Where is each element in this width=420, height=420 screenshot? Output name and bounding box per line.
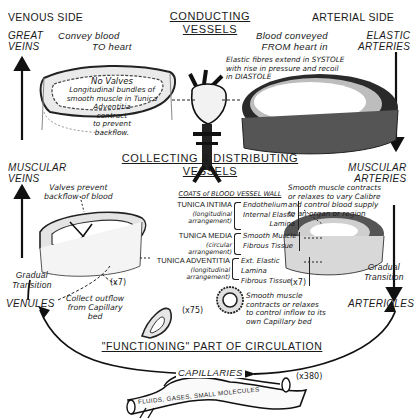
coat-arrangement: (longitudinal [150, 210, 232, 217]
collecting-distributing-heading: COLLECTING & DISTRIBUTING VESSELS [110, 152, 310, 178]
coat-layer: Endothelium [243, 201, 295, 211]
note-line: Blood conveyed [256, 30, 328, 41]
venous-transition-label: Gradual Transition [12, 270, 52, 290]
coat-layer: Ext. Elastic Lamina [241, 257, 306, 276]
note-line: TO heart [58, 41, 132, 52]
note-line: bed [66, 312, 124, 321]
arterioles-note: Smooth muscle contracts or relaxes to co… [246, 292, 326, 326]
muscular-arteries-label: MUSCULAR ARTERIES [348, 162, 407, 184]
coat-layer: Lamina [243, 220, 295, 230]
note-line: Convey blood [58, 30, 132, 41]
note-line: backflow of blood [44, 193, 113, 202]
coat-arrangement: (circular [150, 241, 232, 248]
elastic-artery-cross-section [242, 74, 398, 154]
heading-line: COLLECTING & DISTRIBUTING [110, 152, 310, 165]
arterial-transition-label: Gradual Transition [364, 262, 404, 282]
coat-name: TUNICA ADVENTITIA [150, 257, 230, 266]
coat-name: TUNICA INTIMA [150, 201, 232, 210]
label-line: Transition [12, 280, 52, 290]
venule-illustration [142, 309, 171, 338]
coat-name: TUNICA MEDIA [150, 232, 232, 241]
venous-side-label: VENOUS SIDE [8, 11, 83, 23]
coats-legend: COATS of BLOOD VESSEL WALL TUNICA INTIMA… [150, 190, 310, 288]
venule-magnification: (x75) [182, 306, 203, 315]
heading-line: CONDUCTING [152, 10, 268, 23]
arteriole-illustration [217, 287, 243, 313]
functioning-heading: "FUNCTIONING" PART OF CIRCULATION [92, 340, 332, 353]
venules-note: Collect outflow from Capillary bed [66, 294, 124, 321]
coat-arrangement: arrangement) [150, 217, 232, 224]
arterial-side-label: ARTERIAL SIDE [312, 11, 394, 23]
great-veins-label: GREAT VEINS [8, 30, 43, 52]
coat-row-media: TUNICA MEDIA (circular arrangement) Smoo… [150, 232, 310, 255]
coat-arrangement: (longitudinal [150, 266, 230, 273]
elastic-artery-section-note: Elastic fibres extend in SYSTOLE with ri… [226, 56, 344, 82]
heading-line: VESSELS [152, 23, 268, 36]
capillaries-label: CAPILLARIES [176, 367, 245, 378]
label-line: MUSCULAR [348, 162, 407, 173]
note-line: from Capillary [66, 303, 124, 312]
coat-layer: Fibrous Tissue [243, 242, 296, 252]
venules-label: VENULES [6, 298, 55, 309]
coats-legend-title: COATS of BLOOD VESSEL WALL [150, 190, 310, 198]
label-line: VEINS [8, 41, 43, 52]
elastic-arteries-note: Blood conveyed FROM heart in [256, 30, 328, 52]
brace [232, 258, 239, 280]
elastic-arteries-label: ELASTIC ARTERIES [358, 30, 410, 52]
label-line: GREAT [8, 30, 43, 41]
conducting-vessels-heading: CONDUCTING VESSELS [152, 10, 268, 36]
heading-line: VESSELS [110, 165, 310, 178]
label-line: Transition [364, 272, 404, 282]
coat-arrangement: arrangement) [150, 248, 232, 255]
label-line: Gradual [12, 270, 52, 280]
coat-layer: Fibrous Tissue [241, 277, 306, 287]
capillary-magnification: (x380) [296, 372, 322, 381]
coat-layer: Smooth Muscle [243, 232, 296, 242]
muscular-veins-label: MUSCULAR VEINS [8, 162, 67, 184]
label-line: Gradual [364, 262, 404, 272]
coat-row-adventitia: TUNICA ADVENTITIA (longitudinal arrangem… [150, 257, 310, 286]
note-line: FROM heart in [256, 41, 328, 52]
coat-arrangement: arrangement) [150, 273, 230, 280]
muscular-veins-note: Valves prevent backflow of blood [44, 184, 113, 201]
great-veins-note: Convey blood TO heart [58, 30, 132, 52]
coat-row-intima: TUNICA INTIMA (longitudinal arrangement)… [150, 201, 310, 230]
note-line: own Capillary bed [246, 318, 326, 327]
arterioles-label: ARTERIOLES [348, 298, 414, 309]
muscular-vein-cross-section [40, 196, 146, 276]
coat-layer: Internal Elastic [243, 211, 295, 221]
note-line: backflow. [56, 129, 168, 138]
label-line: MUSCULAR [8, 162, 67, 173]
label-line: ARTERIES [358, 41, 410, 52]
brace [234, 233, 241, 255]
label-line: ELASTIC [358, 30, 410, 41]
note-line: Collect outflow [66, 294, 124, 303]
brace [234, 202, 241, 230]
muscular-vein-magnification: (x7) [110, 278, 126, 287]
note-line: in DIASTOLE [226, 73, 344, 82]
great-vein-section-note: No Valves Longitudinal bundles of smooth… [56, 76, 168, 138]
